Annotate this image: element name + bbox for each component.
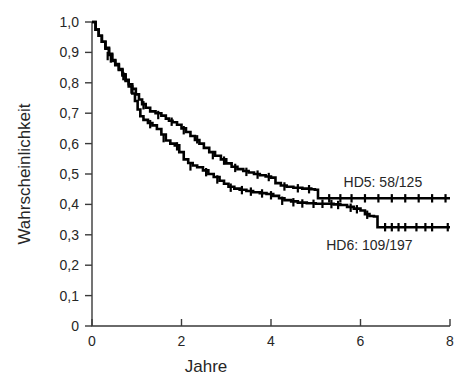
y-tick-label: 0,8: [60, 75, 80, 91]
x-tick-label: 8: [446, 333, 454, 349]
y-tick-label: 0,4: [60, 196, 80, 212]
x-axis-title: Jahre: [185, 357, 228, 376]
y-tick-label: 0: [71, 318, 79, 334]
y-tick-label: 0,6: [60, 136, 80, 152]
x-tick-label: 2: [178, 333, 186, 349]
series-annotation-1: HD5: 58/125: [344, 174, 423, 190]
y-axis-title: Wahrscheinlichkeit: [15, 103, 34, 244]
survival-curve-hd5: [92, 22, 450, 198]
censor-marks-group: [108, 52, 448, 232]
y-tick-group: 00,10,20,30,40,50,60,70,80,91,0: [60, 14, 92, 334]
chart-svg: 00,10,20,30,40,50,60,70,80,91,0 02468 HD…: [0, 0, 471, 381]
kaplan-meier-figure: 00,10,20,30,40,50,60,70,80,91,0 02468 HD…: [0, 0, 471, 381]
y-tick-label: 1,0: [60, 14, 80, 30]
x-tick-label: 0: [88, 333, 96, 349]
series-annotation-2: HD6: 109/197: [326, 237, 413, 253]
y-tick-label: 0,1: [60, 288, 80, 304]
x-tick-label: 4: [267, 333, 275, 349]
y-tick-label: 0,7: [60, 105, 80, 121]
x-tick-group: 02468: [88, 319, 454, 349]
x-tick-label: 6: [357, 333, 365, 349]
y-tick-label: 0,3: [60, 227, 80, 243]
y-tick-label: 0,9: [60, 44, 80, 60]
y-tick-label: 0,5: [60, 166, 80, 182]
series-annotations-group: HD5: 58/125HD6: 109/197: [326, 174, 422, 254]
y-tick-label: 0,2: [60, 257, 80, 273]
